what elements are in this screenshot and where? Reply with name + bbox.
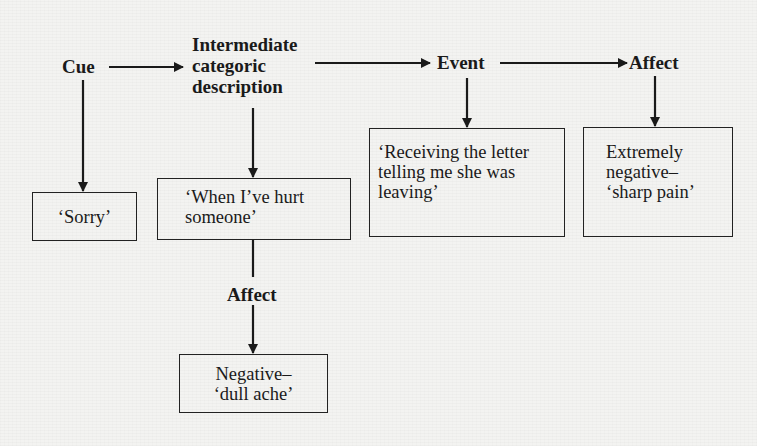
box-extremely-negative-sharp-pain: Extremely negative– ‘sharp pain’	[583, 127, 733, 237]
box-receiving-the-letter: ‘Receiving the letter telling me she was…	[369, 128, 565, 237]
box-dull-ache-text: Negative– ‘dull ache’	[214, 364, 294, 404]
node-event: Event	[437, 52, 485, 73]
box-letter-text: ‘Receiving the letter telling me she was…	[378, 142, 529, 202]
box-sorry: ‘Sorry’	[32, 192, 137, 241]
node-affect-top: Affect	[629, 52, 679, 73]
box-when-ive-hurt-someone: ‘When I’ve hurt someone’	[157, 178, 351, 240]
node-affect-mid: Affect	[227, 284, 277, 305]
node-intermediate-categoric-description: Intermediate categoric description	[192, 34, 298, 97]
node-cue: Cue	[62, 56, 95, 77]
box-negative-dull-ache: Negative– ‘dull ache’	[179, 354, 328, 413]
box-sharp-pain-text: Extremely negative– ‘sharp pain’	[606, 142, 695, 202]
box-hurt-text: ‘When I’ve hurt someone’	[185, 187, 304, 227]
box-sorry-text: ‘Sorry’	[58, 207, 111, 227]
